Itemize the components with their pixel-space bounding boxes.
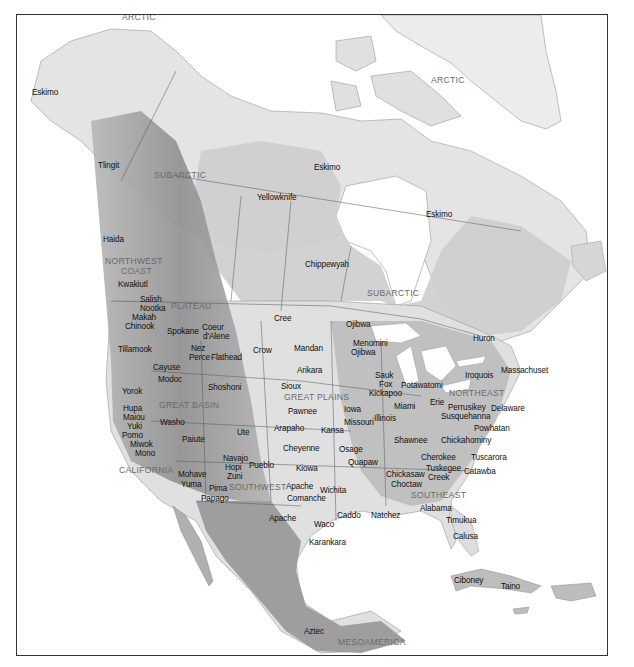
tribe-label: Apache — [286, 483, 313, 491]
tribe-label: Iroquois — [465, 372, 493, 380]
tribe-label: Catawba — [464, 468, 496, 476]
tribe-label: Cayuse — [153, 364, 180, 372]
culture-area-label: COAST — [121, 267, 152, 276]
tribe-label: Waco — [314, 521, 334, 529]
tribe-label: Tlingit — [98, 162, 119, 170]
tribe-label: Choctaw — [391, 481, 422, 489]
tribe-label: Chinook — [125, 323, 154, 331]
tribe-label: Yellowknife — [257, 194, 297, 202]
tribe-label: Arikara — [297, 367, 322, 375]
tribe-label: Crow — [253, 347, 272, 355]
hispaniola — [551, 583, 596, 601]
tribe-label: Eskimo — [314, 164, 340, 172]
tribe-label: Shoshoni — [208, 384, 241, 392]
jamaica — [513, 607, 529, 614]
tribe-label: Caddo — [337, 512, 361, 520]
culture-area-label: PLATEAU — [171, 302, 212, 311]
tribe-label: Perce — [189, 354, 210, 362]
culture-area-label: NORTHWEST — [105, 257, 163, 266]
tribe-label: Massachuset — [501, 367, 548, 375]
tribe-label: Powhatan — [474, 425, 510, 433]
tribe-label: Apache — [269, 515, 296, 523]
tribe-label: Chippewyah — [305, 261, 349, 269]
tribe-label: Alabama — [420, 505, 452, 513]
tribe-label: Missouri — [344, 419, 374, 427]
tribe-label: Ojibwa — [351, 349, 375, 357]
tribe-label: Modoc — [158, 376, 182, 384]
tribe-label: Zuni — [227, 473, 243, 481]
tribe-label: d'Alene — [203, 333, 229, 341]
tribe-label: Tillamook — [118, 346, 152, 354]
tribe-label: Natchez — [371, 512, 400, 520]
tribe-label: Iowa — [344, 406, 361, 414]
tribe-label: Tuskegee — [426, 465, 461, 473]
culture-area-label: SUBARCTIC — [367, 289, 419, 298]
tribe-label: Nez — [191, 345, 205, 353]
culture-area-label: SOUTHWEST — [229, 483, 287, 492]
culture-area-label: NORTHEAST — [449, 389, 505, 398]
tribe-label: Hupa — [123, 405, 142, 413]
tribe-label: Potawatomi — [401, 382, 443, 390]
tribe-label: Ute — [237, 429, 249, 437]
tribe-label: Makah — [132, 314, 156, 322]
tribe-label: Osage — [339, 446, 363, 454]
tribe-label: Ojibwa — [346, 321, 370, 329]
tribe-label: Chickahominy — [441, 437, 491, 445]
map-frame: ARCTICSUBARCTICARCTICSUBARCTICNORTHWESTC… — [16, 14, 608, 656]
tribe-label: Pima — [209, 485, 227, 493]
tribe-label: Cheyenne — [283, 445, 320, 453]
tribe-label: Eskimo — [426, 211, 452, 219]
culture-area-label: SOUTHEAST — [411, 491, 466, 500]
tribe-label: Perrusikey — [448, 404, 486, 412]
tribe-label: Navajo — [223, 455, 248, 463]
tribe-label: Sauk — [375, 372, 393, 380]
tribe-label: Eskimo — [32, 89, 58, 97]
tribe-label: Kansa — [321, 427, 344, 435]
culture-area-label: GREAT BASIN — [159, 401, 219, 410]
tribe-label: Flathead — [211, 354, 242, 362]
tribe-label: Kiowa — [296, 465, 318, 473]
culture-area-label: CALIFORNIA — [119, 466, 174, 475]
tribe-label: Chickasaw — [386, 471, 425, 479]
tribe-label: Tuscarora — [471, 454, 507, 462]
tribe-label: Arapaho — [274, 425, 304, 433]
tribe-label: Quapaw — [348, 459, 378, 467]
tribe-label: Comanche — [287, 495, 326, 503]
tribe-label: Ciboney — [454, 577, 483, 585]
culture-area-label: SUBARCTIC — [154, 171, 206, 180]
tribe-label: Miwok — [130, 441, 153, 449]
tribe-label: Yorok — [122, 388, 142, 396]
tribe-label: Calusa — [453, 533, 478, 541]
tribe-label: Miami — [394, 403, 415, 411]
culture-area-label: ARCTIC — [431, 76, 465, 85]
tribe-label: Creek — [428, 474, 449, 482]
tribe-label: Sioux — [281, 383, 301, 391]
tribe-label: Coeur — [202, 324, 224, 332]
culture-area-label: MESOAMERICA — [338, 638, 406, 647]
tribe-label: Washo — [160, 419, 185, 427]
tribe-label: Menomini — [353, 340, 388, 348]
tribe-label: Maiou — [123, 414, 145, 422]
tribe-label: Pomo — [122, 432, 143, 440]
tribe-label: Cree — [274, 315, 291, 323]
map-basemap — [16, 14, 608, 656]
tribe-label: Spokane — [167, 328, 199, 336]
tribe-label: Taino — [501, 583, 520, 591]
tribe-label: Aztec — [304, 628, 324, 636]
tribe-label: Delaware — [491, 405, 525, 413]
tribe-label: Nootka — [140, 305, 165, 313]
tribe-label: Pueblo — [249, 462, 274, 470]
tribe-label: Erie — [430, 399, 444, 407]
tribe-label: Salish — [140, 296, 162, 304]
tribe-label: Cherokee — [421, 454, 456, 462]
tribe-label: Mono — [135, 450, 155, 458]
tribe-label: Hopi — [225, 464, 241, 472]
tribe-label: Papago — [201, 495, 229, 503]
tribe-label: Karankara — [309, 539, 346, 547]
tribe-label: Kickapoo — [369, 390, 402, 398]
tribe-label: Huron — [473, 335, 495, 343]
tribe-label: Pawnee — [288, 408, 317, 416]
tribe-label: Shawnee — [394, 437, 427, 445]
tribe-label: Paiute — [182, 436, 205, 444]
culture-area-label: GREAT PLAINS — [284, 393, 349, 402]
